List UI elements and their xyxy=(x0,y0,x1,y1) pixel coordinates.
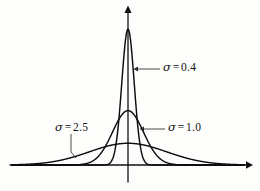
leader-sigma-0-4 xyxy=(134,67,161,72)
sigma-symbol-0-4: σ xyxy=(163,60,171,74)
gaussian-curves-figure: σ=0.4 σ=2.5 σ=1.0 xyxy=(0,0,260,191)
leader-arrowhead-sigma-0-4 xyxy=(134,67,139,72)
annotation-sigma-0-4: σ=0.4 xyxy=(163,62,196,74)
equals-sign-1-0: = xyxy=(178,121,185,133)
plot-canvas xyxy=(0,0,260,191)
leader-sigma-2-5 xyxy=(71,134,76,158)
annotation-sigma-2-5: σ=2.5 xyxy=(55,122,88,134)
sigma-value-1-0: 1.0 xyxy=(186,121,201,133)
sigma-value-2-5: 2.5 xyxy=(73,121,88,133)
leader-sigma-1-0 xyxy=(140,127,166,132)
equals-sign-0-4: = xyxy=(173,61,180,73)
sigma-symbol-2-5: σ xyxy=(55,120,63,134)
sigma-symbol-1-0: σ xyxy=(168,120,176,134)
vertical-axis xyxy=(124,6,131,183)
equals-sign-2-5: = xyxy=(65,121,72,133)
vertical-axis-arrowhead xyxy=(124,6,131,14)
annotation-sigma-1-0: σ=1.0 xyxy=(168,122,201,134)
horizontal-axis-arrowhead xyxy=(246,161,253,169)
sigma-value-0-4: 0.4 xyxy=(181,61,196,73)
